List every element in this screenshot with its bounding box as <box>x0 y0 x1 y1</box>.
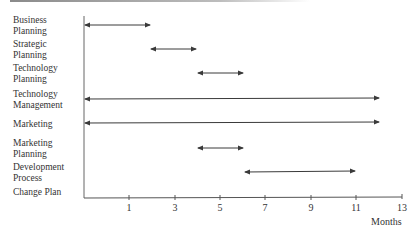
x-axis-title: Months <box>371 216 402 227</box>
x-tick-label: 3 <box>173 202 178 213</box>
x-tick-label: 11 <box>351 202 361 213</box>
x-tick-label: 5 <box>218 202 223 213</box>
x-tick-label: 9 <box>309 202 314 213</box>
x-tick-label: 13 <box>397 202 407 213</box>
x-tick-label: 7 <box>263 202 268 213</box>
arrow-technology-management <box>85 98 379 99</box>
task-arrows <box>85 25 379 172</box>
x-axis-line <box>84 197 402 198</box>
arrow-marketing <box>85 122 379 123</box>
x-tick-label: 1 <box>127 202 132 213</box>
arrow-development-process <box>245 171 355 172</box>
axes <box>84 16 402 200</box>
